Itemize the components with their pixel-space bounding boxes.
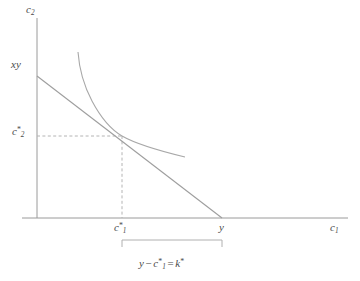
optimal-c1-label: c*1 (114, 222, 126, 235)
bracket-equals-sign: = (166, 257, 175, 269)
x-axis-label-subscript: 1 (335, 227, 339, 235)
bracket-minus-sign: − (144, 257, 153, 269)
horizontal-intercept-label-text: y (219, 221, 224, 233)
bracket (122, 240, 222, 247)
optimal-c1-subscript: 1 (123, 227, 127, 235)
vertical-intercept-label: xy (11, 59, 21, 70)
diagram-canvas (0, 0, 360, 281)
optimal-c2-subscript: 2 (21, 131, 25, 139)
optimal-c2-label: c*2 (12, 126, 24, 139)
vertical-intercept-label-text: xy (11, 58, 21, 70)
y-axis-label-subscript: 2 (31, 9, 35, 17)
horizontal-intercept-label: y (219, 222, 224, 233)
budget-line (37, 76, 222, 218)
economics-diagram: c2 c1 xy c*2 c*1 y y−c*1=k* (0, 0, 360, 281)
bracket-annotation-label: y−c*1=k* (139, 258, 184, 271)
x-axis-label: c1 (330, 222, 339, 235)
indifference-curve (78, 52, 185, 157)
y-axis-label: c2 (26, 4, 35, 17)
bracket-result-star: * (180, 257, 184, 266)
